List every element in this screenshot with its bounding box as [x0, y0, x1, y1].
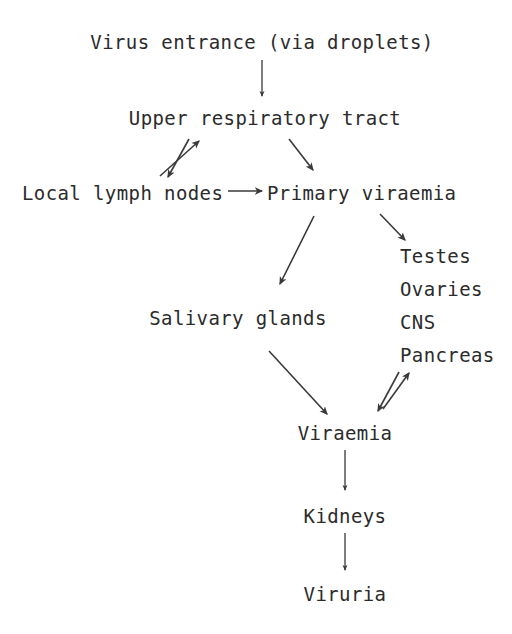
node-upper-respiratory-tract: Upper respiratory tract — [129, 108, 401, 128]
node-testes: Testes — [400, 246, 495, 279]
node-viruria: Viruria — [304, 584, 387, 604]
node-primary-viraemia: Primary viraemia — [267, 183, 456, 203]
edge-primary-to-salivary — [280, 216, 314, 284]
node-kidneys: Kidneys — [304, 506, 387, 526]
node-local-lymph-nodes: Local lymph nodes — [22, 183, 223, 203]
edge-lymph-to-urt — [160, 141, 199, 176]
virus-pathogenesis-diagram: Virus entrance (via droplets) Upper resp… — [0, 0, 512, 634]
node-pancreas: Pancreas — [400, 345, 495, 378]
node-virus-entrance: Virus entrance (via droplets) — [90, 32, 433, 52]
node-group-organ-targets: Testes Ovaries CNS Pancreas — [400, 246, 495, 378]
node-salivary-glands: Salivary glands — [149, 308, 327, 328]
edge-urt-to-primary — [289, 139, 313, 170]
edge-organs-to-viraemia — [378, 372, 399, 411]
edge-primary-to-organs — [380, 214, 405, 240]
edge-viraemia-to-organs — [383, 373, 409, 409]
edge-urt-to-lymph — [168, 139, 189, 177]
node-viraemia: Viraemia — [298, 423, 393, 443]
node-cns: CNS — [400, 312, 495, 345]
edge-salivary-to-viraemia — [269, 351, 327, 414]
node-ovaries: Ovaries — [400, 279, 495, 312]
